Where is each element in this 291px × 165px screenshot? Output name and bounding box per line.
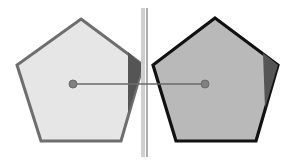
mirror-line (141, 8, 147, 157)
reflected-shaded-wedge (263, 53, 278, 108)
reflected-center-dot (201, 80, 209, 88)
original-pentagon-shape (17, 19, 143, 141)
reflected-pentagon-shape (153, 18, 278, 141)
original-pentagon (17, 19, 143, 141)
reflected-pentagon (153, 18, 278, 141)
mirror-line-band (141, 8, 145, 157)
reflection-diagram (0, 0, 291, 165)
original-center-dot (69, 80, 77, 88)
original-shaded-wedge (128, 52, 143, 113)
